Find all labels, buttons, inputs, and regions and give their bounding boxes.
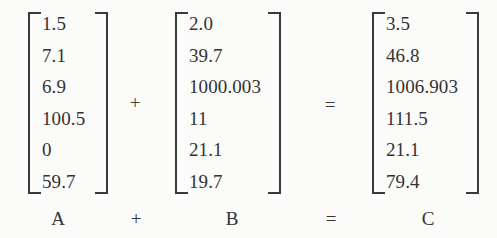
matrix-b-cell-4: 11 (189, 108, 269, 129)
bracket-left-b (175, 12, 188, 194)
bracket-right-a (95, 12, 108, 194)
matrix-c-cell-1: 3.5 (386, 13, 467, 34)
matrix-a-cell-2: 7.1 (42, 45, 96, 66)
matrix-b-cell-2: 39.7 (189, 45, 269, 66)
matrix-a-cell-6: 59.7 (42, 171, 96, 192)
matrix-b-cell-1: 2.0 (189, 13, 269, 34)
matrix-a-cell-4: 100.5 (42, 108, 96, 129)
matrix-c-cell-4: 111.5 (386, 108, 467, 129)
matrix-a-label: A (43, 208, 73, 229)
matrix-c: 3.5 46.8 1006.903 111.5 21.1 79.4 (372, 12, 479, 194)
matrix-c-cell-6: 79.4 (386, 171, 467, 192)
matrix-a-cell-1: 1.5 (42, 13, 96, 34)
matrix-b-cell-6: 19.7 (189, 171, 269, 192)
matrix-b-cell-5: 21.1 (189, 139, 269, 160)
matrix-a: 1.5 7.1 6.9 100.5 0 59.7 (28, 12, 108, 194)
matrix-c-label: C (413, 208, 443, 229)
matrix-c-cell-5: 21.1 (386, 139, 467, 160)
matrix-c-cell-3: 1006.903 (386, 76, 467, 97)
bracket-right-b (268, 12, 281, 194)
bracket-left-a (28, 12, 41, 194)
matrix-a-cell-3: 6.9 (42, 76, 96, 97)
bracket-right-c (466, 12, 479, 194)
matrix-b-label: B (217, 208, 247, 229)
bracket-left-c (372, 12, 385, 194)
matrix-b: 2.0 39.7 1000.003 11 21.1 19.7 (175, 12, 281, 194)
operator-plus: + (123, 93, 147, 112)
matrix-c-cell-2: 46.8 (386, 45, 467, 66)
label-operator-equals: = (316, 208, 346, 229)
matrix-b-cells: 2.0 39.7 1000.003 11 21.1 19.7 (189, 12, 269, 194)
label-operator-plus: + (121, 208, 151, 229)
matrix-c-cells: 3.5 46.8 1006.903 111.5 21.1 79.4 (386, 12, 467, 194)
matrix-a-cells: 1.5 7.1 6.9 100.5 0 59.7 (42, 12, 96, 194)
matrix-b-cell-3: 1000.003 (189, 76, 269, 97)
matrix-equation: 1.5 7.1 6.9 100.5 0 59.7 + 2.0 39.7 1000… (0, 0, 497, 238)
operator-equals: = (318, 95, 342, 114)
matrix-a-cell-5: 0 (42, 139, 96, 160)
